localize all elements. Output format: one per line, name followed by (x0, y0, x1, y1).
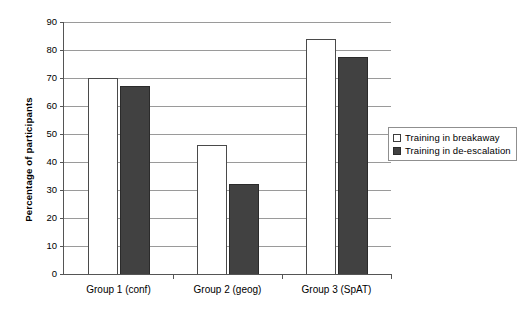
legend-swatch-icon-1 (393, 134, 401, 142)
bar-2-2 (229, 184, 259, 274)
y-axis-tick-label: 10 (46, 241, 57, 251)
bar-chart: Percentage of participants 0102030405060… (0, 0, 527, 313)
y-axis-tick (60, 22, 64, 23)
x-axis-tick (391, 274, 392, 279)
y-axis-tick-label: 80 (46, 45, 57, 55)
y-axis-tick (60, 190, 64, 191)
legend-item-2: Training in de-escalation (393, 144, 511, 157)
y-axis-tick-label: 50 (46, 129, 57, 139)
y-axis-title: Percentage of participants (23, 80, 34, 240)
bar-2-1 (197, 145, 227, 274)
y-axis-tick-label: 40 (46, 157, 57, 167)
y-axis-tick (60, 246, 64, 247)
legend-label-2: Training in de-escalation (405, 145, 511, 156)
y-axis-tick (60, 274, 64, 275)
y-axis-tick (60, 162, 64, 163)
y-axis-tick-label: 90 (46, 17, 57, 27)
x-axis-label-1: Group 1 (conf) (86, 284, 150, 295)
bar-1-1 (88, 78, 118, 274)
y-axis-tick (60, 50, 64, 51)
chart-legend: Training in breakawayTraining in de-esca… (388, 127, 517, 161)
y-axis-tick-label: 70 (46, 73, 57, 83)
gridline (64, 22, 391, 23)
y-axis-tick (60, 78, 64, 79)
y-axis-tick-label: 0 (52, 269, 57, 279)
plot-area: 0102030405060708090Group 1 (conf)Group 2… (63, 22, 391, 275)
y-axis-tick (60, 218, 64, 219)
legend-label-1: Training in breakaway (405, 132, 500, 143)
y-axis-tick-label: 30 (46, 185, 57, 195)
y-axis-tick (60, 106, 64, 107)
x-axis-tick (282, 274, 283, 279)
y-axis-tick-label: 60 (46, 101, 57, 111)
bar-3-2 (338, 57, 368, 274)
x-axis-label-2: Group 2 (geog) (194, 284, 262, 295)
legend-swatch-icon-2 (393, 147, 401, 155)
y-axis-tick (60, 134, 64, 135)
bar-1-2 (120, 86, 150, 274)
x-axis-tick (173, 274, 174, 279)
bar-3-1 (306, 39, 336, 274)
y-axis-tick-label: 20 (46, 213, 57, 223)
gridline (64, 50, 391, 51)
x-axis-label-3: Group 3 (SpAT) (302, 284, 372, 295)
legend-item-1: Training in breakaway (393, 131, 511, 144)
